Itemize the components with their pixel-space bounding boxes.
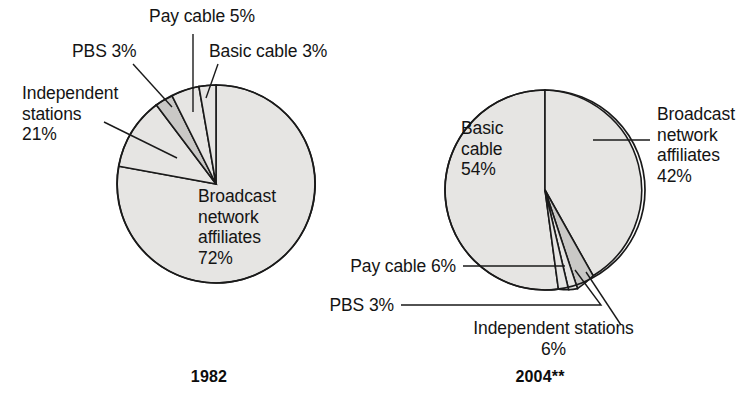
label-2004-pay-cable: Pay cable 6% xyxy=(306,256,456,277)
label-2004-pbs: PBS 3% xyxy=(274,295,394,316)
label-1982-broadcast-line2: network xyxy=(198,207,308,228)
label-2004-independent-stations: Independent stations 6% xyxy=(446,318,661,359)
label-1982-broadcast-line1: Broadcast xyxy=(198,186,308,207)
label-2004-independent-line2: 6% xyxy=(446,339,661,360)
label-2004-basic-line3: 54% xyxy=(461,159,553,180)
label-1982-independent-line3: 21% xyxy=(22,124,140,145)
label-1982-basic-cable: Basic cable 3% xyxy=(209,41,374,62)
pie-charts-figure: Pay cable 5% PBS 3% Basic cable 3% Indep… xyxy=(0,0,748,410)
label-2004-basic-line2: cable xyxy=(461,139,553,160)
label-1982-independent-stations: Independent stations 21% xyxy=(22,83,140,145)
label-1982-pay-cable: Pay cable 5% xyxy=(127,6,277,27)
label-2004-broadcast-line4: 42% xyxy=(657,166,748,187)
label-2004-basic-cable: Basic cable 54% xyxy=(461,118,553,180)
label-2004-broadcast-line3: affiliates xyxy=(657,145,748,166)
label-1982-broadcast-line3: affiliates xyxy=(198,227,308,248)
label-1982-independent-line2: stations xyxy=(22,104,140,125)
chart-title-2004: 2004** xyxy=(490,368,590,386)
label-1982-broadcast-network-affiliates: Broadcast network affiliates 72% xyxy=(198,186,308,268)
label-2004-broadcast-line1: Broadcast xyxy=(657,104,748,125)
label-2004-broadcast-network-affiliates: Broadcast network affiliates 42% xyxy=(657,104,748,186)
label-1982-independent-line1: Independent xyxy=(22,83,140,104)
label-2004-independent-line1: Independent stations xyxy=(446,318,661,339)
label-1982-pbs: PBS 3% xyxy=(72,41,160,62)
chart-title-1982: 1982 xyxy=(159,368,259,386)
label-1982-broadcast-line4: 72% xyxy=(198,248,308,269)
label-2004-broadcast-line2: network xyxy=(657,125,748,146)
label-2004-basic-line1: Basic xyxy=(461,118,553,139)
